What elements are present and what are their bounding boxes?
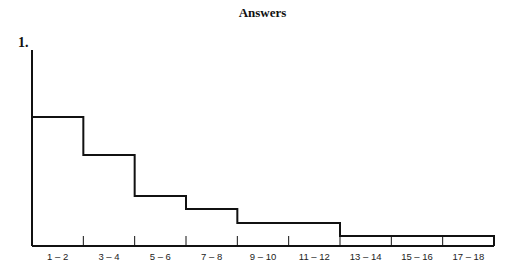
x-tick-label: 17 – 18 xyxy=(452,251,484,262)
histogram-step-line xyxy=(32,117,494,246)
plot-area: 1 – 23 – 45 – 67 – 89 – 1011 – 1213 – 14… xyxy=(32,50,494,262)
x-tick-label: 5 – 6 xyxy=(150,251,171,262)
x-tick-label: 15 – 16 xyxy=(401,251,433,262)
x-tick-label: 7 – 8 xyxy=(201,251,222,262)
histogram-chart: 1 – 23 – 45 – 67 – 89 – 1011 – 1213 – 14… xyxy=(0,0,525,276)
x-tick-label: 9 – 10 xyxy=(250,251,276,262)
x-tick-label: 3 – 4 xyxy=(98,251,119,262)
x-tick-label: 13 – 14 xyxy=(350,251,382,262)
x-tick-label: 1 – 2 xyxy=(47,251,68,262)
x-tick-label: 11 – 12 xyxy=(299,251,330,262)
